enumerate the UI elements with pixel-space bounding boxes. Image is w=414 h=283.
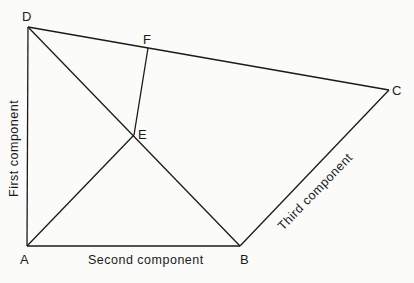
segment-ef: [134, 48, 148, 135]
point-label-c: C: [392, 83, 401, 98]
segment-ad: [27, 27, 28, 246]
segment-bc: [240, 90, 389, 246]
point-label-a: A: [20, 252, 29, 267]
diagram-svg: D F C E A B First component Second compo…: [0, 0, 414, 283]
point-label-b: B: [240, 252, 249, 267]
point-label-d: D: [22, 9, 31, 24]
segment-dc: [28, 27, 389, 90]
axis-label-third: Third component: [275, 150, 355, 233]
point-label-f: F: [143, 32, 151, 47]
point-label-e: E: [138, 127, 147, 142]
segment-db: [28, 27, 240, 246]
axis-label-second: Second component: [88, 253, 204, 267]
component-diagram: D F C E A B First component Second compo…: [0, 0, 414, 283]
axis-label-first: First component: [7, 100, 21, 197]
segment-ae: [27, 135, 134, 246]
